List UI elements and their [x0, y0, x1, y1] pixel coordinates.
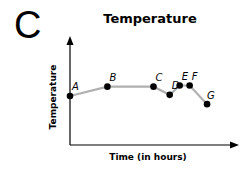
point-label-a: A	[71, 81, 79, 92]
data-point-e	[176, 82, 183, 89]
temperature-series: ABCDEFG	[67, 71, 215, 108]
point-label-e: E	[182, 71, 189, 82]
point-label-g: G	[207, 90, 215, 101]
y-axis-label: Temperature	[48, 65, 58, 130]
point-label-f: F	[192, 71, 198, 82]
data-point-a	[67, 93, 74, 100]
line-chart: Temperature Time (in hours) Temperature …	[0, 0, 244, 169]
y-axis-arrow-icon	[67, 36, 74, 45]
data-point-f	[186, 82, 193, 89]
data-point-b	[104, 83, 111, 90]
data-point-d	[166, 92, 173, 99]
data-point-g	[204, 101, 211, 108]
point-label-c: C	[155, 72, 162, 83]
series-line	[70, 86, 207, 105]
x-axis-arrow-icon	[230, 142, 239, 149]
chart-title: Temperature	[103, 11, 197, 26]
x-axis-label: Time (in hours)	[109, 152, 186, 162]
point-label-b: B	[109, 72, 116, 83]
data-point-c	[150, 83, 157, 90]
